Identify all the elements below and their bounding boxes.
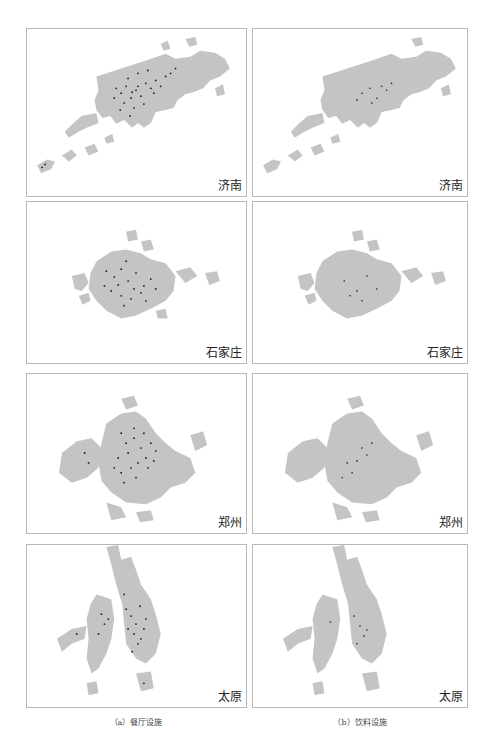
city-label: 郑州 <box>218 513 242 530</box>
map-panel-shijiazhuang-restaurant: 石家庄 <box>26 201 247 364</box>
urban-area-map-taiyuan <box>27 545 246 707</box>
city-label: 太原 <box>439 687 463 704</box>
caption-restaurant-facilities: （a）餐厅设施 <box>36 716 236 727</box>
map-panel-zhengzhou-beverage: 郑州 <box>252 373 468 534</box>
urban-area-map-shijiazhuang <box>253 202 467 363</box>
map-panel-taiyuan-restaurant: 太原 <box>26 544 247 708</box>
city-label: 石家庄 <box>427 343 463 360</box>
city-label: 石家庄 <box>206 343 242 360</box>
caption-beverage-facilities: （b）饮料设施 <box>260 716 460 727</box>
map-panel-shijiazhuang-beverage: 石家庄 <box>252 201 468 364</box>
map-panel-jinan-beverage: 济南 <box>252 28 468 197</box>
urban-area-map-jinan <box>253 29 467 196</box>
urban-area-map-shijiazhuang <box>27 202 246 363</box>
urban-area-map-zhengzhou <box>253 374 467 533</box>
map-panel-zhengzhou-restaurant: 郑州 <box>26 373 247 534</box>
city-label: 济南 <box>439 176 463 193</box>
city-label: 济南 <box>218 176 242 193</box>
urban-area-map-jinan <box>27 29 246 196</box>
map-panel-taiyuan-beverage: 太原 <box>252 544 468 708</box>
urban-area-map-taiyuan <box>253 545 467 707</box>
city-label: 太原 <box>218 687 242 704</box>
map-panel-jinan-restaurant: 济南 <box>26 28 247 197</box>
city-label: 郑州 <box>439 513 463 530</box>
urban-area-map-zhengzhou <box>27 374 246 533</box>
